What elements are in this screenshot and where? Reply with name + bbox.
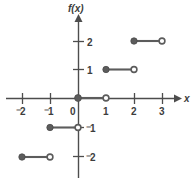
closed-dot-1-1 [103, 66, 109, 72]
y-label-neg2: 2 [90, 152, 96, 163]
step-function-graph-figure: ⁻ 2 ⁻ 1 0 1 2 3 2 1 ⁻ 1 ⁻ 2 f(x) x [0, 0, 192, 183]
y-axis-label: f(x) [68, 3, 84, 14]
axis-titles: f(x) x [68, 3, 190, 104]
y-label-neg1: 1 [90, 123, 96, 134]
open-dot-0-neg1 [75, 125, 81, 131]
closed-dot-2-2 [131, 38, 137, 44]
closed-dot-0-0 [75, 95, 82, 102]
y-tick-labels: 2 1 ⁻ 1 ⁻ 2 [86, 37, 96, 163]
x-label-1: 1 [103, 106, 109, 117]
closed-dot-neg2-neg2 [19, 154, 25, 160]
x-tick-labels: ⁻ 2 ⁻ 1 0 1 2 3 [16, 106, 165, 117]
x-axis-label: x [183, 93, 190, 104]
open-dot-2-1 [131, 67, 137, 73]
x-label-0: 0 [70, 106, 76, 117]
open-dot-neg1-neg2 [47, 154, 53, 160]
open-dot-1-0 [103, 95, 109, 101]
closed-dot-neg1-neg1 [47, 124, 53, 130]
graph-canvas: ⁻ 2 ⁻ 1 0 1 2 3 2 1 ⁻ 1 ⁻ 2 f(x) x [0, 0, 192, 183]
x-label-neg1: 1 [48, 106, 54, 117]
y-axis-arrow-icon [75, 14, 83, 22]
x-axis-arrow-icon [174, 95, 182, 103]
y-label-2: 2 [87, 37, 93, 48]
x-label-neg2: 2 [20, 106, 26, 117]
open-dot-3-2 [159, 38, 165, 44]
x-label-2: 2 [131, 106, 137, 117]
x-label-3: 3 [159, 106, 165, 117]
y-label-1: 1 [87, 65, 93, 76]
